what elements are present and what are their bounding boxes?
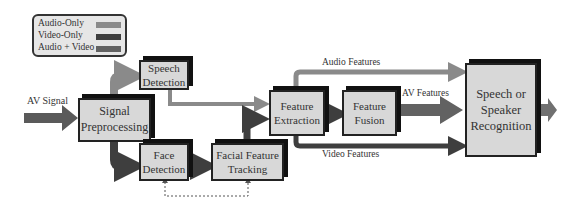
arrow-tracking-to-extraction (247, 119, 256, 143)
legend-swatch-video (96, 34, 121, 40)
block-speech-detection: Speech Detection (139, 60, 189, 90)
arrow-video-features (296, 136, 458, 146)
arrow-audio-features (296, 72, 458, 88)
legend-swatch-audio (96, 22, 121, 28)
av-signal-arrow (24, 105, 78, 131)
video-features-label: Video Features (322, 149, 379, 159)
block-signal-preprocessing: Signal Preprocessing (78, 98, 151, 142)
legend-label-video: Video-Only (38, 30, 83, 40)
arrow-speech-to-extraction (170, 90, 262, 104)
block-facial-feature-tracking: Facial Feature Tracking (211, 143, 284, 181)
block-recognition: Speech or Speaker Recognition (465, 63, 537, 157)
arrow-to-speech (114, 76, 130, 100)
block-feature-fusion: Feature Fusion (342, 90, 397, 136)
legend-label-av: Audio + Video (38, 42, 94, 52)
legend-label-audio: Audio-Only (38, 18, 84, 28)
arrow-output (540, 98, 557, 122)
av-features-label: AV Features (402, 88, 449, 98)
feedback-dashed-line (165, 182, 248, 196)
arrow-av-features (397, 96, 463, 124)
audio-features-label: Audio Features (322, 57, 380, 67)
block-feature-extraction: Feature Extraction (269, 90, 325, 136)
arrow-to-face (114, 140, 130, 166)
diagram: Audio-Only Video-Only Audio + Video AV S… (0, 0, 572, 206)
legend: Audio-Only Video-Only Audio + Video (32, 14, 127, 57)
legend-swatch-av (96, 46, 121, 52)
block-face-detection: Face Detection (139, 143, 189, 181)
av-signal-label: AV Signal (27, 95, 68, 106)
